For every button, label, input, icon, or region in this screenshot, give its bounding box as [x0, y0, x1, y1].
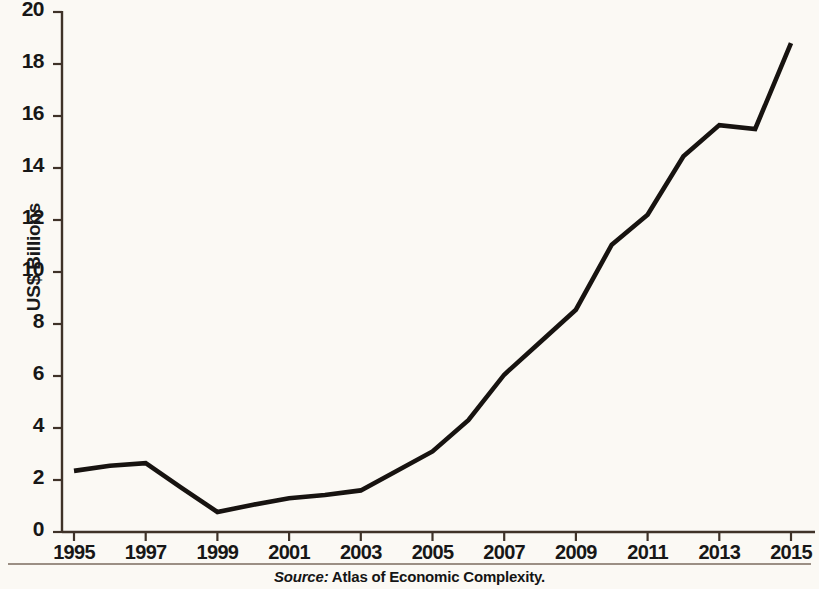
x-tick-label: 2013	[679, 541, 759, 564]
x-tick-label: 2003	[321, 541, 401, 564]
x-tick-label: 1997	[106, 541, 186, 564]
y-tick-label: 8	[0, 309, 44, 333]
y-axis-ticks	[53, 12, 62, 532]
chart-plot-area: US$ Billions 20181614121086420 199519971…	[0, 0, 819, 560]
y-tick-label: 2	[0, 465, 44, 489]
y-tick-label: 12	[0, 205, 44, 229]
source-note: Source: Atlas of Economic Complexity.	[0, 568, 819, 585]
source-value: Atlas of Economic Complexity.	[332, 568, 545, 585]
x-tick-label: 1999	[177, 541, 257, 564]
chart-figure: US$ Billions 20181614121086420 199519971…	[0, 0, 819, 589]
x-tick-label: 2005	[393, 541, 473, 564]
x-tick-label: 1995	[34, 541, 114, 564]
x-tick-label: 2001	[249, 541, 329, 564]
x-tick-label: 2011	[608, 541, 688, 564]
data-series-line	[74, 43, 791, 512]
y-tick-label: 6	[0, 361, 44, 385]
source-label: Source:	[274, 568, 328, 585]
x-tick-label: 2009	[536, 541, 616, 564]
y-tick-label: 14	[0, 153, 44, 177]
y-tick-label: 10	[0, 257, 44, 281]
footer-divider	[8, 563, 811, 565]
x-tick-label: 2007	[464, 541, 544, 564]
x-axis-ticks	[74, 532, 791, 541]
y-tick-label: 16	[0, 101, 44, 125]
y-tick-label: 0	[0, 517, 44, 541]
y-tick-label: 18	[0, 49, 44, 73]
x-tick-label: 2015	[751, 541, 819, 564]
y-tick-label: 4	[0, 413, 44, 437]
y-tick-label: 20	[0, 0, 44, 21]
line-chart-canvas	[0, 0, 819, 560]
